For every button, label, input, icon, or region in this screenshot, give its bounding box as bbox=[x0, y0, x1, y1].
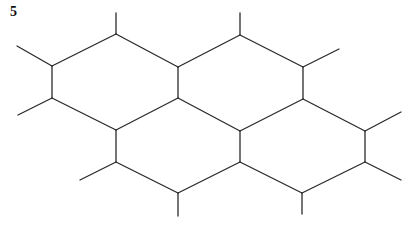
lattice-bond bbox=[240, 99, 303, 131]
dangling-bond bbox=[365, 112, 401, 131]
figure: 5 bbox=[0, 0, 413, 231]
lattice-bond bbox=[178, 98, 240, 131]
dangling-bond bbox=[303, 49, 339, 67]
lattice-bond bbox=[178, 162, 240, 193]
lattice-bond bbox=[303, 99, 365, 131]
dangling-bond bbox=[80, 162, 116, 180]
dangling-bond bbox=[365, 162, 401, 180]
lattice-bond bbox=[240, 162, 302, 193]
dangling-bond bbox=[18, 98, 52, 115]
lattice-bond bbox=[116, 98, 178, 130]
lattice-bond bbox=[240, 35, 303, 67]
lattice-bond bbox=[52, 34, 116, 66]
hexagonal-lattice-diagram bbox=[0, 0, 413, 231]
lattice-bond bbox=[52, 98, 116, 130]
lattice-bond bbox=[116, 34, 178, 67]
lattice-bond bbox=[116, 162, 178, 193]
dangling-bond bbox=[17, 46, 52, 66]
lattice-bond bbox=[302, 162, 365, 193]
lattice-bond bbox=[178, 35, 240, 67]
